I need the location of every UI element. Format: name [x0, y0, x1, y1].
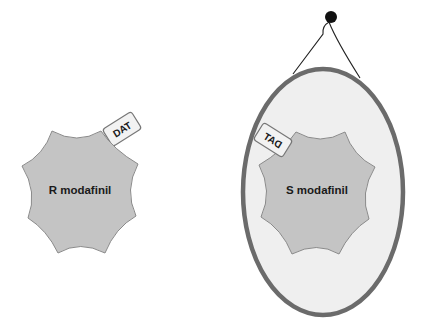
- s-modafinil-label: S modafinil: [286, 184, 348, 196]
- r-modafinil-molecule: DAT R modafinil: [22, 112, 142, 253]
- r-modafinil-label: R modafinil: [49, 184, 112, 196]
- mirror-hook: [325, 11, 337, 23]
- chirality-diagram: DAT R modafinil DAT S modafinil: [0, 0, 424, 321]
